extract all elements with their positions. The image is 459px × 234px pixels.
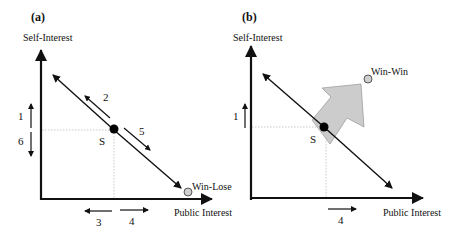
arrow-5 bbox=[124, 128, 150, 150]
arrow-1-label: 1 bbox=[18, 111, 24, 122]
arrow-6-label: 6 bbox=[18, 136, 24, 147]
panel-b-point-label: S bbox=[310, 134, 316, 145]
panel-b-y-axis-label: Self-Interest bbox=[233, 33, 282, 43]
arrow-3-label: 3 bbox=[96, 217, 102, 228]
status-quo-dot bbox=[320, 123, 329, 132]
panel-a-y-axis-label: Self-Interest bbox=[23, 33, 72, 43]
arrow-4-label: 4 bbox=[129, 216, 135, 227]
panel-a-outcome-label: Win-Lose bbox=[192, 182, 232, 192]
status-quo-dot bbox=[110, 125, 119, 134]
arrow-2-label: 2 bbox=[103, 92, 109, 103]
tradeoff-line-down bbox=[114, 130, 181, 188]
panel-b-label: (b) bbox=[242, 11, 257, 23]
panel-b-x-axis-label: Public Interest bbox=[383, 208, 441, 218]
tradeoff-line-up bbox=[263, 74, 324, 127]
win-lose-circle bbox=[184, 188, 192, 196]
panel-a-x-axis-label: Public Interest bbox=[174, 208, 232, 218]
tradeoff-line-down bbox=[324, 127, 392, 188]
panel-b-outcome-label: Win-Win bbox=[371, 67, 408, 77]
panel-a-label: (a) bbox=[31, 11, 45, 23]
arrow-4-label: 4 bbox=[338, 215, 344, 226]
arrow-5-label: 5 bbox=[139, 126, 145, 137]
panel-a bbox=[31, 50, 212, 211]
arrow-1-label: 1 bbox=[233, 111, 239, 122]
win-win-direction-arrow bbox=[312, 84, 364, 144]
panel-a-point-label: S bbox=[99, 136, 105, 147]
